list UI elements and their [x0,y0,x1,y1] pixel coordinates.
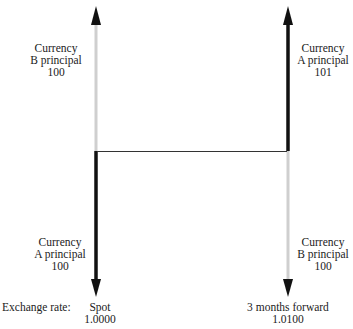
label-line: A principal [293,54,353,66]
arrow-up-icon [91,6,101,25]
arrow-down-icon [283,279,293,297]
label-line: Currency [293,42,353,54]
right-bottom-label: Currency B principal 100 [293,236,353,272]
forward-label: 3 months forward 1.0100 [238,301,338,325]
label-line: Currency [293,236,353,248]
label-line: 101 [293,66,353,78]
label-line: B principal [26,54,86,66]
label-line: 100 [26,66,86,78]
label-line: 100 [30,260,90,272]
right-top-label: Currency A principal 101 [293,42,353,78]
label-line: A principal [30,248,90,260]
label-line: B principal [293,248,353,260]
exchange-rate-row-label: Exchange rate: [2,301,71,313]
label-line: 100 [293,260,353,272]
left-top-label: Currency B principal 100 [26,42,86,78]
arrow-up-icon [283,6,293,25]
rate-value: 1.0000 [75,313,125,325]
timing-text: 3 months forward [238,301,338,313]
rate-value: 1.0100 [238,313,338,325]
label-line: Currency [26,42,86,54]
left-bottom-label: Currency A principal 100 [30,236,90,272]
spot-label: Spot 1.0000 [75,301,125,325]
row-label-text: Exchange rate: [2,301,71,313]
timing-text: Spot [75,301,125,313]
arrow-down-icon [91,279,101,297]
label-line: Currency [30,236,90,248]
